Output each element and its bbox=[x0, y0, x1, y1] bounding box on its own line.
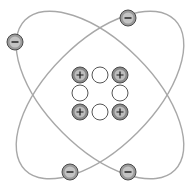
atom-diagram bbox=[0, 0, 193, 192]
proton bbox=[72, 104, 88, 120]
electron bbox=[120, 10, 136, 26]
orbit-0 bbox=[0, 0, 193, 192]
neutron bbox=[72, 85, 88, 101]
nucleus bbox=[72, 67, 128, 120]
proton bbox=[72, 67, 88, 83]
neutron bbox=[92, 67, 108, 83]
proton bbox=[112, 104, 128, 120]
orbit-1 bbox=[0, 0, 193, 192]
electron bbox=[62, 164, 78, 180]
orbits bbox=[0, 0, 193, 192]
neutron bbox=[112, 85, 128, 101]
proton bbox=[112, 67, 128, 83]
electron bbox=[7, 34, 23, 50]
electron bbox=[120, 164, 136, 180]
neutron bbox=[92, 104, 108, 120]
